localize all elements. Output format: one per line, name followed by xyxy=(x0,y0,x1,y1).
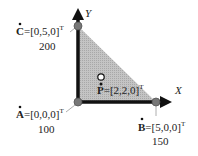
label-p-coords: =[2,2,0] xyxy=(104,84,140,96)
label-a-coords: =[0,0,0] xyxy=(24,108,60,120)
label-b-coords: =[5,0,0] xyxy=(145,121,181,133)
label-a-value: 100 xyxy=(38,123,55,135)
label-c-value: 200 xyxy=(39,40,56,52)
vertex-c[interactable] xyxy=(74,22,82,30)
x-axis-arrowhead xyxy=(160,96,172,108)
label-b: B=[5,0,0]T xyxy=(138,120,186,133)
point-p-marker[interactable] xyxy=(98,74,104,80)
label-b-value: 150 xyxy=(152,135,169,147)
label-p-sup: T xyxy=(139,83,144,91)
leader-line-c xyxy=(70,28,75,32)
label-c: C=[0,5,0]T xyxy=(16,24,64,37)
triangle-diagram: X Y C=[0,5,0]T 200 A=[0,0,0]T 100 B=[5,0… xyxy=(0,0,198,156)
label-a-name: A xyxy=(16,108,24,120)
vertex-a[interactable] xyxy=(74,98,82,106)
label-p: P=[2,2,0]T xyxy=(97,83,144,96)
label-a: A=[0,0,0]T xyxy=(16,107,64,120)
leader-line-a xyxy=(66,105,75,112)
y-axis-label: Y xyxy=(85,7,93,19)
x-axis-label: X xyxy=(174,84,183,96)
label-b-sup: T xyxy=(181,120,186,128)
vertex-b[interactable] xyxy=(152,98,160,106)
label-c-coords: =[0,5,0] xyxy=(24,25,60,37)
label-c-name: C xyxy=(16,25,24,37)
b-name-dot xyxy=(141,118,144,121)
y-axis-arrowhead xyxy=(72,8,84,20)
label-c-sup: T xyxy=(59,24,64,32)
label-a-sup: T xyxy=(59,107,64,115)
